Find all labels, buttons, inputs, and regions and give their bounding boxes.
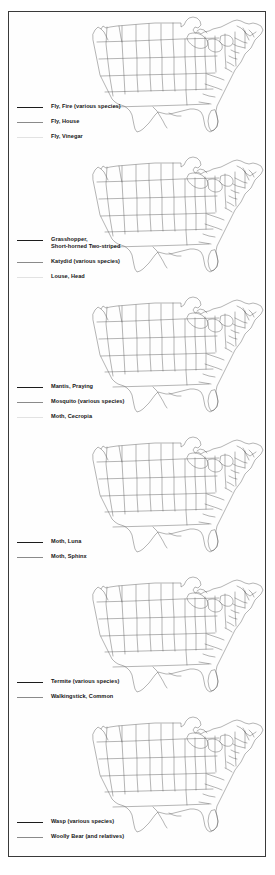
panel-termite-walkingstick: Termite (various species)Walkingstick, C… (9, 572, 265, 712)
legend-row: Mantis, Praying (15, 381, 175, 395)
legend-row: Wasp (various species) (15, 816, 175, 830)
legend-line (17, 542, 43, 543)
legend-label: Walkingstick, Common (51, 691, 113, 700)
legend-label: Katydid (various species) (51, 256, 120, 265)
legend-label: Woolly Bear (and relatives) (51, 831, 124, 840)
legend-line-swatch-solid (15, 676, 45, 688)
legend-line-swatch-solid (15, 816, 45, 828)
legend-label: Fly, Vinegar (51, 131, 83, 140)
legend-label: Mantis, Praying (51, 381, 93, 390)
legend-line-swatch-faint (15, 271, 45, 283)
legend-line-swatch-solid (15, 381, 45, 393)
legend-label: Moth, Cecropia (51, 411, 92, 420)
map-legend: Mantis, PrayingMosquito (various species… (15, 381, 175, 426)
legend-line-swatch-thin (15, 551, 45, 563)
map-legend: Fly, Fire (various species)Fly, HouseFly… (15, 101, 175, 146)
legend-line (17, 402, 43, 403)
legend-line-swatch-faint (15, 131, 45, 143)
legend-line (17, 122, 43, 123)
legend-label: Moth, Sphinx (51, 551, 87, 560)
panel-flies: Fly, Fire (various species)Fly, HouseFly… (9, 12, 265, 152)
map-legend: Moth, LunaMoth, Sphinx (15, 536, 175, 566)
legend-line (17, 822, 43, 823)
legend-row: Katydid (various species) (15, 256, 175, 270)
map-sheet: Fly, Fire (various species)Fly, HouseFly… (8, 11, 266, 857)
legend-line (17, 277, 43, 278)
legend-line-swatch-solid (15, 101, 45, 113)
panel-wasp-woollybear: Wasp (various species)Woolly Bear (and r… (9, 712, 265, 852)
legend-row: Woolly Bear (and relatives) (15, 831, 175, 845)
legend-line-swatch-solid (15, 536, 45, 548)
legend-line-swatch-thin (15, 256, 45, 268)
legend-line-swatch-thin (15, 116, 45, 128)
legend-row: Mosquito (various species) (15, 396, 175, 410)
legend-row: Fly, Vinegar (15, 131, 175, 145)
legend-label: Termite (various species) (51, 676, 119, 685)
legend-row: Moth, Luna (15, 536, 175, 550)
legend-line-swatch-thin (15, 396, 45, 408)
legend-label: Mosquito (various species) (51, 396, 124, 405)
legend-line (17, 417, 43, 418)
legend-line-swatch-thin (15, 831, 45, 843)
legend-row: Fly, Fire (various species) (15, 101, 175, 115)
panel-mantis-mosquito-moth: Mantis, PrayingMosquito (various species… (9, 292, 265, 432)
legend-row: Termite (various species) (15, 676, 175, 690)
legend-label: Fly, House (51, 116, 79, 125)
map-legend: Wasp (various species)Woolly Bear (and r… (15, 816, 175, 846)
map-legend: Grasshopper, Short-horned Two-stripedKat… (15, 234, 175, 286)
legend-line-swatch-solid (15, 234, 45, 246)
legend-row: Grasshopper, Short-horned Two-striped (15, 234, 175, 255)
legend-line (17, 837, 43, 838)
legend-line-swatch-thin (15, 691, 45, 703)
legend-row: Louse, Head (15, 271, 175, 285)
legend-row: Fly, House (15, 116, 175, 130)
map-legend: Termite (various species)Walkingstick, C… (15, 676, 175, 706)
legend-label: Fly, Fire (various species) (51, 101, 121, 110)
legend-label: Moth, Luna (51, 536, 81, 545)
legend-label: Wasp (various species) (51, 816, 114, 825)
legend-line (17, 262, 43, 263)
legend-label: Louse, Head (51, 271, 85, 280)
legend-line (17, 137, 43, 138)
legend-line (17, 557, 43, 558)
legend-line (17, 107, 43, 108)
legend-line (17, 240, 43, 241)
legend-label: Grasshopper, Short-horned Two-striped (51, 234, 120, 250)
legend-line (17, 682, 43, 683)
legend-line (17, 697, 43, 698)
panel-grasshopper-katydid-louse: Grasshopper, Short-horned Two-stripedKat… (9, 152, 265, 292)
legend-row: Walkingstick, Common (15, 691, 175, 705)
legend-row: Moth, Sphinx (15, 551, 175, 565)
legend-line-swatch-faint (15, 411, 45, 423)
legend-line (17, 387, 43, 388)
legend-row: Moth, Cecropia (15, 411, 175, 425)
panel-moths: Moth, LunaMoth, Sphinx (9, 432, 265, 572)
